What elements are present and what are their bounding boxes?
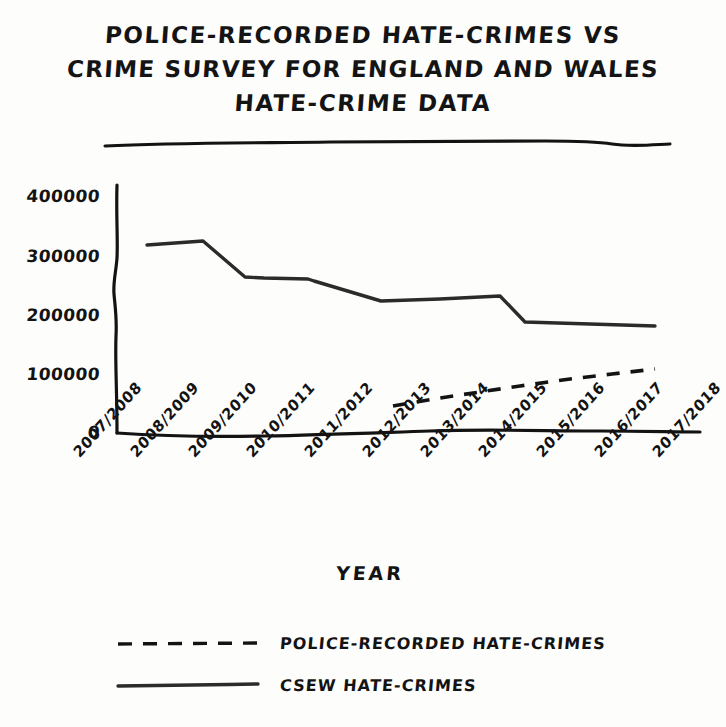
legend-swatch-solid	[118, 684, 258, 686]
y-tick-label-100000: 100000	[15, 364, 101, 384]
title-underline	[105, 141, 670, 146]
series-csew-line	[147, 241, 655, 326]
y-tick-label-400000: 400000	[15, 186, 101, 206]
x-axis-title: YEAR	[335, 562, 405, 584]
chart-page: POLICE-RECORDED HATE-CRIMES VS CRIME SUR…	[0, 0, 726, 727]
legend-swatch-dashed	[118, 643, 258, 644]
chart-canvas	[0, 0, 726, 727]
legend-label-police-recorded: POLICE-RECORDED HATE-CRIMES	[279, 634, 607, 653]
legend-label-csew: CSEW HATE-CRIMES	[279, 676, 477, 695]
y-tick-label-300000: 300000	[15, 246, 101, 266]
y-tick-label-200000: 200000	[15, 305, 101, 325]
